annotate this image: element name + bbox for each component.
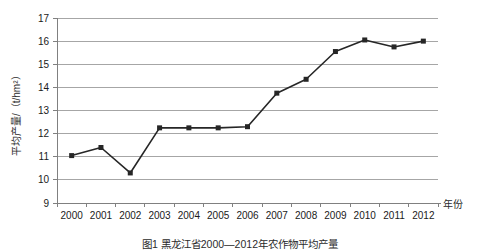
x-axis-tick-label: 2002 bbox=[119, 210, 142, 221]
x-axis-tick-label: 2005 bbox=[207, 210, 230, 221]
y-axis-tick-label: 13 bbox=[38, 105, 50, 116]
data-point-marker bbox=[186, 125, 191, 130]
data-point-marker bbox=[362, 37, 367, 42]
y-axis-tick-label: 15 bbox=[38, 59, 50, 70]
x-axis-title: 年份 bbox=[443, 196, 463, 211]
x-axis-tick-label: 2007 bbox=[266, 210, 289, 221]
x-axis-tick-label: 2004 bbox=[178, 210, 201, 221]
data-point-marker bbox=[157, 125, 162, 130]
data-point-marker bbox=[128, 170, 133, 175]
y-axis-group: 91011121314151617 bbox=[38, 13, 57, 209]
x-axis-tick-label: 2012 bbox=[412, 210, 435, 221]
x-axis-tick-label: 2006 bbox=[236, 210, 259, 221]
data-point-marker bbox=[245, 124, 250, 129]
data-series-group bbox=[69, 37, 426, 175]
data-point-marker bbox=[421, 39, 426, 44]
x-axis-tick-label: 2009 bbox=[324, 210, 347, 221]
x-axis-tick-label: 2010 bbox=[354, 210, 377, 221]
figure-caption: 图1 黑龙江省2000—2012年农作物平均产量 bbox=[0, 236, 480, 251]
data-point-marker bbox=[392, 44, 397, 49]
data-point-marker bbox=[304, 77, 309, 82]
x-axis-tick-label: 2001 bbox=[90, 210, 113, 221]
y-axis-tick-label: 9 bbox=[43, 198, 49, 209]
data-point-marker bbox=[98, 145, 103, 150]
x-axis-tick-label: 2003 bbox=[148, 210, 171, 221]
y-axis-tick-label: 16 bbox=[38, 36, 50, 47]
data-point-marker bbox=[333, 49, 338, 54]
x-axis-tick-label: 2008 bbox=[295, 210, 318, 221]
x-axis-group: 2000200120022003200420052006200720082009… bbox=[57, 203, 441, 221]
x-axis-tick-label: 2011 bbox=[383, 210, 405, 221]
data-point-marker bbox=[69, 153, 74, 158]
y-axis-tick-label: 14 bbox=[38, 82, 50, 93]
y-axis-tick-label: 17 bbox=[38, 13, 50, 24]
x-axis-tick-label: 2000 bbox=[61, 210, 84, 221]
data-point-marker bbox=[274, 91, 279, 96]
y-axis-tick-label: 11 bbox=[39, 151, 50, 162]
data-line bbox=[72, 40, 424, 173]
data-point-marker bbox=[216, 125, 221, 130]
y-axis-tick-label: 10 bbox=[38, 174, 50, 185]
gridlines-group bbox=[57, 18, 438, 203]
y-axis-tick-label: 12 bbox=[38, 128, 50, 139]
